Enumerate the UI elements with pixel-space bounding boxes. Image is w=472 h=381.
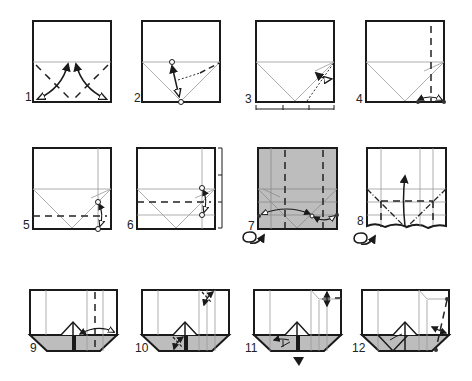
step-3: 3	[245, 21, 334, 110]
measure-bracket-icon	[218, 148, 222, 228]
step-number: 2	[134, 91, 141, 105]
step-number: 7	[248, 219, 255, 233]
step-6: 6	[127, 148, 222, 232]
step-number: 6	[127, 218, 134, 232]
origami-diagram: 1 2 3	[0, 0, 472, 381]
turn-over-icon	[354, 233, 375, 244]
step-9: 9	[30, 290, 117, 355]
measure-bracket-icon	[256, 105, 334, 110]
step-10: 10	[135, 290, 229, 355]
step-number: 3	[245, 92, 252, 106]
step-11: 11	[245, 290, 341, 366]
step-7: 7	[243, 148, 339, 243]
step-number: 9	[30, 341, 37, 355]
step-number: 5	[23, 218, 30, 232]
step-number: 1	[25, 90, 32, 104]
step-number: 11	[245, 341, 258, 355]
step-8: 8	[354, 148, 446, 244]
step-4: 4	[356, 21, 446, 106]
step-number: 4	[356, 92, 363, 106]
step-1: 1	[25, 21, 111, 104]
step-number: 12	[352, 341, 366, 355]
step-12: 12	[352, 290, 449, 355]
step-number: 8	[357, 214, 364, 228]
step-2: 2	[134, 21, 220, 105]
step-number: 10	[135, 341, 149, 355]
turn-over-icon	[243, 232, 264, 243]
push-arrow-icon	[293, 357, 304, 366]
step-5: 5	[23, 148, 111, 232]
